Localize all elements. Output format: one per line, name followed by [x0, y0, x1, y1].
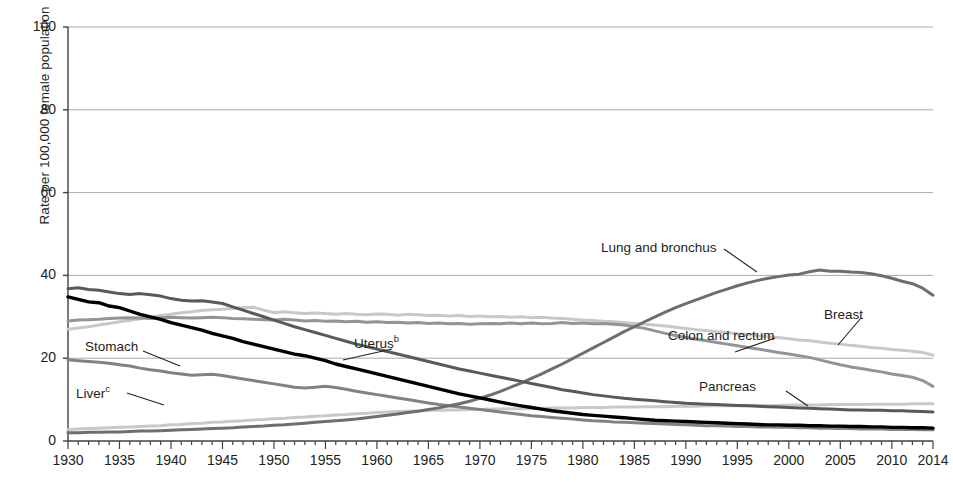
y-tick-label: 100 — [16, 18, 56, 34]
y-tick-label: 0 — [16, 432, 56, 448]
series-line — [68, 307, 933, 355]
series-label-liver: Liverc — [76, 383, 110, 401]
series-line — [68, 360, 933, 430]
series-label-colon: Colon and rectum — [668, 328, 775, 343]
series-label-stomach: Stomach — [85, 339, 138, 354]
y-tick-label: 20 — [16, 349, 56, 365]
label-leader-line — [724, 249, 757, 272]
label-leader-line — [127, 393, 164, 405]
series-label-uterus: Uterusb — [354, 333, 399, 351]
y-tick-label: 60 — [16, 184, 56, 200]
label-leader-line — [838, 318, 861, 345]
series-label-breast: Breast — [824, 307, 863, 322]
series-line — [68, 288, 933, 412]
series-label-pancreas: Pancreas — [699, 379, 756, 394]
x-tick-label: 2014 — [903, 452, 953, 468]
y-tick-label: 80 — [16, 101, 56, 117]
series-label-lung: Lung and bronchus — [601, 240, 717, 255]
y-tick-label: 40 — [16, 266, 56, 282]
